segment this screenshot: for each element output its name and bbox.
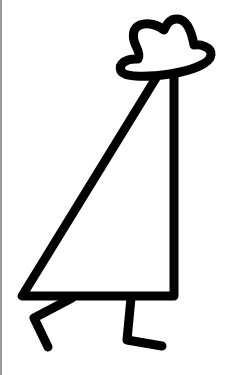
- left-leg: [34, 298, 72, 347]
- hat-icon: [120, 19, 211, 76]
- figure-drawing: [0, 0, 235, 375]
- right-leg: [127, 298, 162, 346]
- body-triangle: [22, 78, 174, 296]
